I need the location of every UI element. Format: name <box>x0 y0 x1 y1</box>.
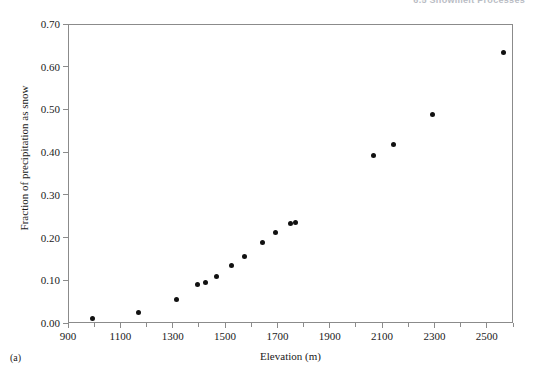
data-point <box>174 297 179 302</box>
x-tick-mark <box>172 323 173 328</box>
plot-frame <box>68 24 513 323</box>
y-tick-label: 0.10 <box>41 272 60 288</box>
x-tick-label: 2500 <box>462 330 512 342</box>
data-point <box>242 254 247 259</box>
plot-data-area <box>69 25 512 322</box>
x-tick-mark <box>486 323 487 328</box>
data-point <box>195 282 200 287</box>
data-point <box>288 221 293 226</box>
x-tick-label: 1700 <box>252 330 302 342</box>
y-tick-label: 0.50 <box>41 101 60 117</box>
x-minor-tick-mark <box>408 323 409 327</box>
x-tick-mark <box>120 323 121 328</box>
x-minor-tick-mark <box>513 323 514 327</box>
x-tick-label: 1300 <box>148 330 198 342</box>
x-tick-label: 2100 <box>357 330 407 342</box>
x-tick-label: 2300 <box>409 330 459 342</box>
x-tick-mark <box>277 323 278 328</box>
x-tick-mark <box>382 323 383 328</box>
y-tick-mark <box>63 66 68 67</box>
y-tick-label: 0.40 <box>41 144 60 160</box>
y-tick-label: 0.70 <box>41 16 60 32</box>
x-tick-mark <box>225 323 226 328</box>
y-axis: 0.000.100.200.300.400.500.600.70 <box>0 0 68 377</box>
y-tick-label: 0.30 <box>41 187 60 203</box>
y-tick-mark <box>63 152 68 153</box>
x-tick-mark <box>329 323 330 328</box>
data-point <box>260 240 265 245</box>
panel-label: (a) <box>10 352 21 363</box>
y-tick-mark <box>63 237 68 238</box>
data-point <box>229 263 234 268</box>
y-tick-label: 0.20 <box>41 230 60 246</box>
scatter-plot-figure: 0.000.100.200.300.400.500.600.70 Fractio… <box>0 0 535 377</box>
data-point <box>273 230 278 235</box>
x-axis-title: Elevation (m) <box>68 350 513 362</box>
data-point <box>293 220 298 225</box>
x-minor-tick-mark <box>94 323 95 327</box>
data-point <box>430 112 435 117</box>
x-minor-tick-mark <box>251 323 252 327</box>
y-tick-mark <box>63 280 68 281</box>
data-point <box>501 50 506 55</box>
data-point <box>371 153 376 158</box>
y-tick-mark <box>63 194 68 195</box>
x-minor-tick-mark <box>198 323 199 327</box>
x-tick-label: 900 <box>43 330 93 342</box>
x-minor-tick-mark <box>460 323 461 327</box>
y-tick-label: 0.60 <box>41 59 60 75</box>
data-point <box>391 142 396 147</box>
data-point <box>136 310 141 315</box>
y-axis-title: Fraction of precipitation as snow <box>18 48 30 268</box>
y-tick-mark <box>63 24 68 25</box>
data-point <box>90 316 95 321</box>
x-tick-label: 1500 <box>200 330 250 342</box>
x-tick-label: 1100 <box>95 330 145 342</box>
x-tick-mark <box>434 323 435 328</box>
x-minor-tick-mark <box>355 323 356 327</box>
y-tick-mark <box>63 109 68 110</box>
x-minor-tick-mark <box>146 323 147 327</box>
data-point <box>203 280 208 285</box>
x-tick-label: 1900 <box>305 330 355 342</box>
x-minor-tick-mark <box>303 323 304 327</box>
x-tick-mark <box>68 323 69 328</box>
data-point <box>214 274 219 279</box>
